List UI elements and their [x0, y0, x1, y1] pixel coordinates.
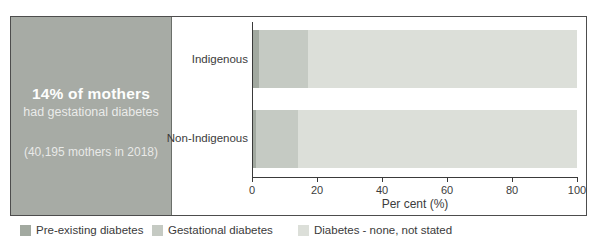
legend-label: Diabetes - none, not stated: [314, 224, 452, 236]
x-tick: [252, 178, 253, 182]
bar-segment: [298, 110, 577, 168]
stacked-bar: [253, 110, 577, 168]
x-axis-title: Per cent (%): [330, 197, 500, 211]
bar-segment: [256, 110, 298, 168]
highlight-panel: 14% of mothers had gestational diabetes …: [11, 17, 172, 215]
x-tick-label: 80: [506, 184, 518, 196]
legend-swatch-none: [298, 225, 309, 236]
x-tick-label: 60: [441, 184, 453, 196]
headline-stat: 14% of mothers: [11, 85, 171, 103]
x-tick: [512, 178, 513, 182]
category-label-indigenous: Indigenous: [160, 53, 248, 65]
highlight-panel-text: 14% of mothers had gestational diabetes …: [11, 85, 171, 159]
x-tick: [447, 178, 448, 182]
legend-label: Pre-existing diabetes: [36, 224, 143, 236]
bar-segment: [308, 30, 577, 88]
x-tick: [577, 178, 578, 182]
x-axis-line: [252, 177, 578, 178]
bar-segment: [259, 30, 308, 88]
x-tick-label: 20: [311, 184, 323, 196]
stacked-bar: [253, 30, 577, 88]
headline-subtext: had gestational diabetes: [11, 105, 171, 119]
y-axis-line: [252, 22, 253, 177]
legend-swatch-gestational: [152, 225, 163, 236]
x-tick-label: 0: [249, 184, 255, 196]
legend-label: Gestational diabetes: [168, 224, 273, 236]
x-tick: [382, 178, 383, 182]
category-label-non-indigenous: Non-Indigenous: [160, 132, 248, 144]
x-tick-label: 40: [376, 184, 388, 196]
sample-size-note: (40,195 mothers in 2018): [11, 145, 171, 159]
infographic: 14% of mothers had gestational diabetes …: [0, 0, 598, 246]
bar-non-indigenous: [253, 110, 577, 168]
legend-swatch-pre-existing: [20, 225, 31, 236]
x-tick: [317, 178, 318, 182]
x-tick-label: 100: [568, 184, 586, 196]
bar-indigenous: [253, 30, 577, 88]
